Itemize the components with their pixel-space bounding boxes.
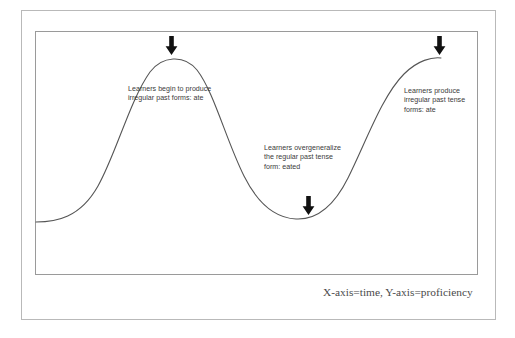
down-arrow-icon bbox=[433, 36, 446, 56]
down-arrow-icon bbox=[165, 36, 178, 56]
down-arrow-icon bbox=[302, 196, 315, 216]
axis-caption: X-axis=time, Y-axis=proficiency bbox=[323, 285, 473, 299]
figure-root: Learners begin to produce irregular past… bbox=[0, 0, 515, 338]
plot-frame bbox=[35, 31, 478, 275]
annotation-peak-right: Learners produce irregular past tense fo… bbox=[404, 87, 482, 115]
annotation-trough: Learners overgeneralize the regular past… bbox=[264, 144, 344, 172]
annotation-peak-left: Learners begin to produce irregular past… bbox=[128, 85, 216, 104]
